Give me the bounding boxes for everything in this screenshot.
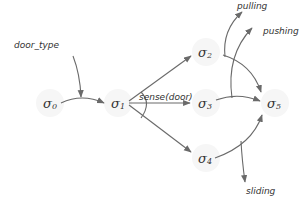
label-door-type: door_type — [14, 40, 59, 50]
edge-sliding-output — [241, 141, 245, 182]
edge-s3-s5 — [216, 96, 260, 101]
node-labels: σ0 σ1 σ2 σ3 σ4 σ5 — [43, 45, 281, 166]
edge-s0-s1 — [61, 98, 104, 103]
label-pushing: pushing — [262, 26, 299, 36]
label-pulling: pulling — [236, 1, 268, 11]
edge-s4-s5 — [215, 115, 262, 158]
edge-s2-s5 — [223, 55, 261, 92]
edge-s1-s4 — [129, 105, 191, 152]
edge-door-type-input — [73, 56, 81, 97]
label-sliding: sliding — [246, 186, 276, 196]
edge-pushing-output — [231, 28, 252, 98]
state-diagram: σ0 σ1 σ2 σ3 σ4 σ5 door_type sense(door) … — [0, 0, 306, 198]
label-sense-door: sense(door) — [139, 92, 193, 102]
edge-pulling-output — [225, 12, 242, 57]
